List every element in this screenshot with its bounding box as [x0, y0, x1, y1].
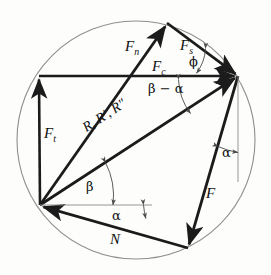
vector-f-friction: [189, 76, 238, 244]
vector-ft: [39, 80, 40, 206]
label-angle-alpha-right: α: [222, 146, 231, 159]
label-fc: Fc: [152, 59, 166, 77]
label-angle-beta-minus-alpha: β − α: [148, 82, 183, 95]
label-ft: Ft: [44, 126, 56, 144]
angle-arc-beta: [106, 163, 114, 206]
label-angle-beta: β: [86, 180, 94, 193]
angle-arc-alpha-left: [144, 205, 146, 219]
label-f-friction: F: [206, 186, 215, 201]
label-fn: Fn: [125, 39, 139, 57]
label-angle-phi: ϕ: [189, 55, 198, 68]
force-diagram-figure: Ft Fc Fn Fs R, R′, R″ F N ϕ β − α α β α: [0, 0, 271, 275]
label-n-normal: N: [110, 232, 120, 247]
label-angle-alpha-left: α: [112, 209, 121, 222]
